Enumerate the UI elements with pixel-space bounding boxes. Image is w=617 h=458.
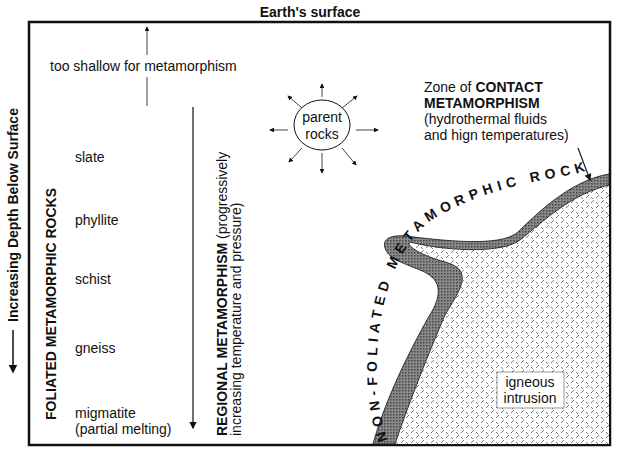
svg-text:parent: parent [302,109,342,125]
svg-text:and hign temperatures): and hign temperatures) [424,127,569,143]
metamorphism-diagram: Earth's surface Increasing Depth Below S… [0,0,617,458]
migmatite-note: (partial melting) [75,421,171,437]
foliated-heading: FOLIATED METAMORPHIC ROCKS [43,188,59,420]
svg-text:igneous: igneous [505,374,554,390]
rock-schist: schist [75,271,111,287]
depth-axis-label: Increasing Depth Below Surface [5,108,21,322]
earth-surface-title: Earth's surface [260,4,361,20]
svg-text:METAMORPHISM: METAMORPHISM [424,95,540,111]
svg-text:rocks: rocks [305,126,338,142]
depth-axis: Increasing Depth Below Surface [5,108,21,372]
rock-slate: slate [75,149,105,165]
rock-migmatite: migmatite [75,405,136,421]
rock-phyllite: phyllite [75,212,119,228]
svg-text:(hydrothermal fluids: (hydrothermal fluids [424,111,547,127]
svg-text:intrusion: intrusion [504,390,557,406]
regional-line2: increasing temperature and pressure) [228,203,244,436]
igneous-label: igneous intrusion [497,372,564,408]
too-shallow-label: too shallow for metamorphism [50,58,237,74]
svg-text:Zone of CONTACT: Zone of CONTACT [424,79,543,95]
rock-gneiss: gneiss [75,340,115,356]
